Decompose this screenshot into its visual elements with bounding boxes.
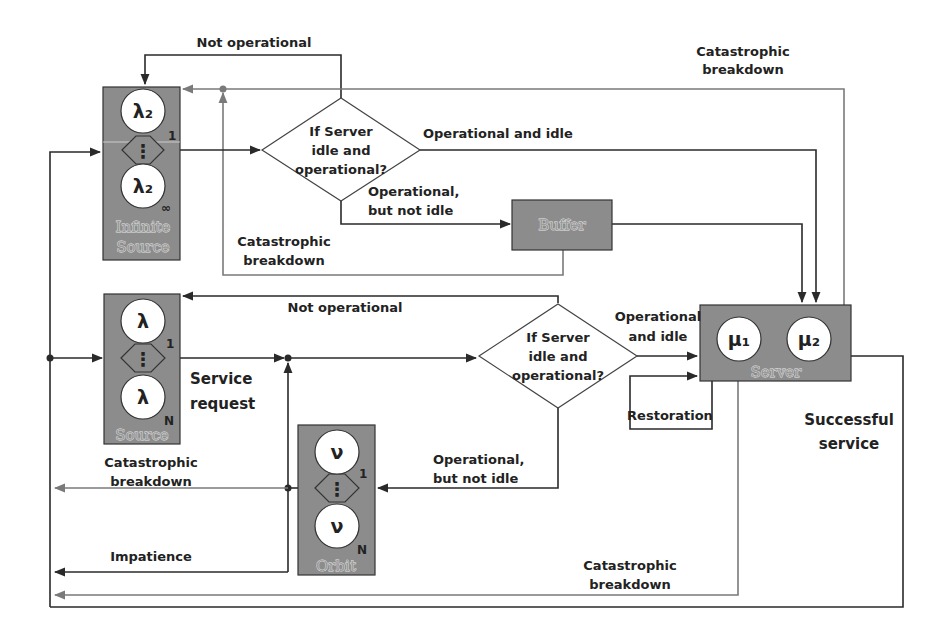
lambda-top-symbol: λ <box>137 310 149 332</box>
edge-left-loop <box>50 152 100 607</box>
mu2-symbol: μ₂ <box>798 328 820 350</box>
label-catastrophic-buffer-2: breakdown <box>243 253 324 268</box>
edge-operational-idle-top <box>420 150 816 302</box>
nu-top-index: 1 <box>359 467 367 481</box>
label-operational-not-idle-mid-2: but not idle <box>433 471 518 486</box>
server-title: Server <box>751 363 803 381</box>
edge-buffer-to-server <box>612 224 802 302</box>
nu-bottom-symbol: ν <box>331 515 344 537</box>
label-operational-not-idle-top-2: but not idle <box>368 203 453 218</box>
label-catastrophic-bottom-1: Catastrophic <box>583 558 676 573</box>
label-service-request-1: Service <box>190 370 252 388</box>
decision-bottom: If Server idle and operational? <box>479 304 637 408</box>
orbit-title: Orbit <box>316 557 356 575</box>
server-node: μ₁ μ₂ Server <box>700 305 851 381</box>
label-successful-service-1: Successful <box>804 411 894 429</box>
label-catastrophic-buffer-1: Catastrophic <box>237 234 330 249</box>
label-operational-idle-mid-2: and idle <box>629 329 688 344</box>
source-node: λ 1 ⋮ λ N Source <box>104 294 180 444</box>
decision-bottom-line2: idle and <box>529 349 588 364</box>
nu-top-symbol: ν <box>331 441 344 463</box>
lambda2-top-index: 1 <box>168 129 176 143</box>
label-catastrophic-top-right-2: breakdown <box>702 62 783 77</box>
vertical-dots: ⋮ <box>134 348 153 370</box>
junction-dot-left <box>47 355 54 362</box>
buffer-title: Buffer <box>538 216 586 234</box>
label-catastrophic-top-right-1: Catastrophic <box>696 44 789 59</box>
label-impatience: Impatience <box>110 549 192 564</box>
edge-catastrophic-server-to-infinite <box>183 89 844 305</box>
infinite-source-node: λ₂ 1 ⋮ λ₂ ∞ Infinite Source <box>103 87 180 260</box>
label-operational-not-idle-top-1: Operational, <box>368 184 459 199</box>
label-operational-idle-mid-1: Operational <box>615 309 701 324</box>
infinite-source-title-1: Infinite <box>116 218 171 236</box>
decision-top-line2: idle and <box>312 143 371 158</box>
buffer-node: Buffer <box>512 200 612 250</box>
vertical-dots: ⋮ <box>134 140 153 162</box>
queueing-system-diagram: λ₂ 1 ⋮ λ₂ ∞ Infinite Source If Server id… <box>0 0 944 642</box>
label-catastrophic-bottom-2: breakdown <box>589 577 670 592</box>
infinite-source-title-2: Source <box>116 238 170 256</box>
lambda-top-index: 1 <box>166 337 174 351</box>
label-catastrophic-orbit-1: Catastrophic <box>104 455 197 470</box>
label-operational-not-idle-mid-1: Operational, <box>433 452 524 467</box>
label-service-request-2: request <box>190 395 255 413</box>
decision-bottom-line3: operational? <box>512 368 604 383</box>
decision-bottom-line1: If Server <box>526 330 590 345</box>
decision-top-line1: If Server <box>309 124 373 139</box>
label-not-operational-top: Not operational <box>197 35 312 50</box>
label-operational-idle-top: Operational and idle <box>423 126 573 141</box>
label-successful-service-2: service <box>819 435 879 453</box>
label-restoration: Restoration <box>627 408 713 423</box>
orbit-node: ν 1 ⋮ ν N Orbit <box>298 425 375 575</box>
label-not-operational-mid: Not operational <box>288 300 403 315</box>
source-title: Source <box>115 426 169 444</box>
lambda2-bottom-index: ∞ <box>161 201 171 215</box>
vertical-dots: ⋮ <box>328 478 347 500</box>
decision-top-line3: operational? <box>295 162 387 177</box>
junction-dot-grey <box>220 86 227 93</box>
nu-bottom-index: N <box>357 543 367 557</box>
lambda2-bottom-symbol: λ₂ <box>133 175 153 197</box>
mu1-symbol: μ₁ <box>728 328 750 350</box>
lambda2-top-symbol: λ₂ <box>133 100 153 122</box>
label-catastrophic-orbit-2: breakdown <box>110 474 191 489</box>
lambda-bottom-symbol: λ <box>137 386 149 408</box>
